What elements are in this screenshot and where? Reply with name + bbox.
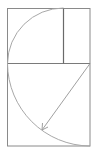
radius-arrow-line (42, 64, 90, 131)
lower-arc (8, 64, 91, 147)
golden-rectangle-diagram (0, 0, 94, 153)
upper-arc (8, 8, 64, 64)
